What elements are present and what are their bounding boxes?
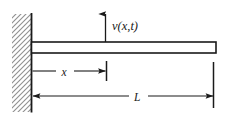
diagram-canvas: v(x,t) x L: [0, 0, 233, 118]
x-dimension-label: x: [61, 66, 68, 78]
deflection-label: v(x,t): [112, 19, 138, 33]
l-dimension-label: L: [133, 91, 140, 103]
fixed-support-wall: [12, 13, 32, 113]
x-dimension-group: [33, 61, 107, 81]
wall-hatch-region: [12, 14, 31, 112]
beam-outline: [32, 42, 217, 53]
l-dimension-group: [33, 62, 214, 108]
cantilever-beam-diagram: v(x,t) x L: [0, 0, 233, 118]
beam: [32, 42, 217, 53]
